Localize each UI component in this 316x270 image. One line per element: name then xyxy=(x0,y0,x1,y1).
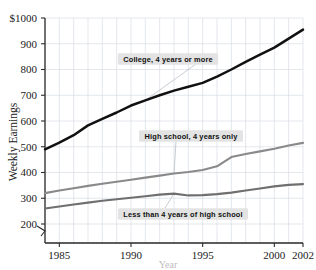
chart-figure: 200300400500600700800900$1000 1985199019… xyxy=(0,0,316,270)
y-tick-label: 400 xyxy=(21,166,38,178)
annotation-label: Less than 4 years of high school xyxy=(123,210,242,219)
y-tick-label: 900 xyxy=(21,38,38,50)
y-axis-break-icon xyxy=(37,226,45,236)
y-tick-label: 200 xyxy=(21,218,38,230)
x-tick-label: 1995 xyxy=(192,249,215,261)
y-tick-label: 500 xyxy=(21,141,38,153)
line-chart-svg: 200300400500600700800900$1000 1985199019… xyxy=(0,0,316,270)
annotation-label: High school, 4 years only xyxy=(145,132,239,141)
y-tick-label: 700 xyxy=(21,89,38,101)
x-tick-label: 2002 xyxy=(292,249,314,261)
y-tick-label: 600 xyxy=(21,115,38,127)
x-tick-label: 2000 xyxy=(263,249,286,261)
y-tick-label: 300 xyxy=(21,192,38,204)
x-axis-title: Year xyxy=(159,259,178,270)
x-tick-label: 1985 xyxy=(48,249,71,261)
x-axis xyxy=(45,243,303,247)
annotation-label: College, 4 years or more xyxy=(123,55,212,64)
x-tick-label: 1990 xyxy=(120,249,143,261)
x-tick-labels: 19851990199520002002 xyxy=(48,249,314,261)
y-tick-label: 800 xyxy=(21,63,38,75)
leader-line xyxy=(165,194,174,208)
y-tick-label: $1000 xyxy=(10,12,38,24)
y-axis-title: Weekly Earnings xyxy=(7,102,20,181)
